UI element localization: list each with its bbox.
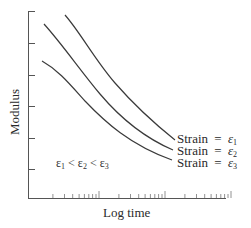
x-log-ticks [53,191,231,198]
legend-label: Strain [177,155,208,170]
curves [42,15,175,160]
y-axis-label: Modulus [7,89,23,135]
strain-inequality-annotation: ε1 < ε2 < ε3 [56,156,109,171]
legend-strain-3: Strain = ε3 [177,156,237,173]
curve-strain-3 [42,61,172,160]
x-axis-label: Log time [103,205,150,221]
curve-strain-1 [65,15,175,140]
curve-strain-2 [44,24,173,150]
chart-canvas [0,0,251,228]
